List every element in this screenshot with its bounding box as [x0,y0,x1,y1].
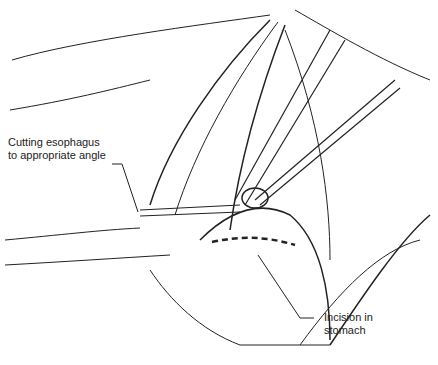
label-cutting-esophagus: Cutting esophagus to appropriate angle [8,136,106,162]
label-line: stomach [324,324,373,337]
surgical-illustration: Cutting esophagus to appropriate angle I… [0,0,438,365]
label-line: to appropriate angle [8,149,106,162]
label-line: Cutting esophagus [8,136,106,149]
label-line: Incision in [324,311,373,324]
label-incision-in-stomach: Incision in stomach [324,311,373,337]
